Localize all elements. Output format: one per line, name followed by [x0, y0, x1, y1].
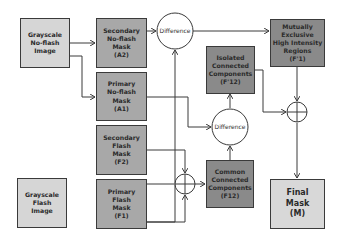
difference-middle-operator: Difference: [212, 123, 248, 130]
mutually-exclusive-regions-node: Mutually Exclusive High Intensity Region…: [270, 19, 325, 67]
primary-flash-mask-node: Primary Flash Mask (F1): [96, 179, 147, 229]
difference-top-operator: Difference: [157, 27, 193, 34]
primary-noflash-mask-node: Primary No-flash Mask (A1): [96, 72, 147, 121]
grayscale-flash-image-node: Grayscale Flash Image: [17, 178, 67, 228]
grayscale-noflash-image-node: Grayscale No-flash Image: [20, 18, 70, 68]
secondary-flash-mask-node: Secondary Flash Mask (F2): [96, 125, 147, 175]
plus-lower-operator: [175, 174, 195, 194]
isolated-connected-components-node: Isolated Connected Components (F'12): [206, 46, 255, 94]
common-connected-components-node: Common Connected Components (F12): [206, 160, 254, 208]
final-mask-node: Final Mask (M): [270, 179, 325, 229]
plus-right-operator: [287, 102, 307, 122]
secondary-noflash-mask-node: Secondary No-flash Mask (A2): [96, 18, 147, 68]
